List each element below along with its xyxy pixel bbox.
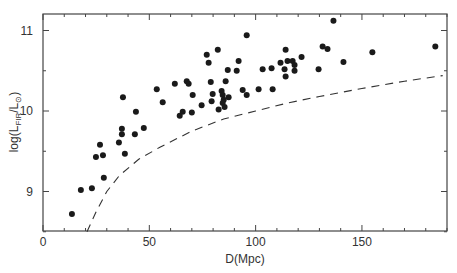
data-point (141, 125, 147, 131)
data-point (122, 151, 128, 157)
data-point (330, 18, 336, 24)
x-tick-label: 150 (352, 235, 372, 249)
data-point (283, 73, 289, 79)
data-point (116, 139, 122, 145)
data-point (236, 58, 242, 64)
data-point (97, 142, 103, 148)
data-point (283, 47, 289, 53)
data-point (190, 92, 196, 98)
data-point (189, 110, 195, 116)
data-point (244, 92, 250, 98)
data-point (154, 86, 160, 92)
data-point (199, 102, 205, 108)
data-point (240, 87, 246, 93)
data-point (234, 68, 240, 74)
dashed-limit-curve (87, 76, 443, 232)
detection-limit-curve (87, 76, 443, 232)
data-point (119, 131, 125, 137)
data-point (225, 67, 231, 73)
data-point (206, 60, 212, 66)
data-point (160, 99, 166, 105)
data-point (215, 47, 221, 53)
data-point (180, 109, 186, 115)
data-point (209, 98, 215, 104)
data-point (269, 65, 275, 71)
plot-frame (43, 14, 447, 231)
data-point (210, 91, 216, 97)
data-point (69, 211, 75, 217)
data-point (299, 54, 305, 60)
scatter-chart: 050100150 91011 D(Mpc) log(LFIR/L⊙) (0, 0, 457, 273)
data-point (226, 94, 232, 100)
plot-area (43, 14, 447, 231)
data-point (256, 86, 262, 92)
data-point (270, 86, 276, 92)
data-point (292, 68, 298, 74)
data-point (208, 79, 214, 85)
data-points (69, 18, 438, 217)
y-tick-label: 9 (26, 185, 33, 199)
data-point (100, 152, 106, 158)
x-axis: 050100150 (40, 14, 447, 249)
data-point (432, 44, 438, 50)
y-axis: 91011 (20, 24, 447, 232)
data-point (93, 154, 99, 160)
data-point (244, 32, 250, 38)
data-point (292, 62, 298, 68)
data-point (316, 66, 322, 72)
data-point (282, 66, 288, 72)
data-point (204, 52, 210, 58)
x-tick-label: 50 (143, 235, 157, 249)
data-point (89, 185, 95, 191)
data-point (223, 78, 229, 84)
y-axis-title: log(LFIR/L⊙) (7, 92, 23, 153)
data-point (78, 187, 84, 193)
data-point (119, 126, 125, 132)
data-point (133, 109, 139, 115)
data-point (186, 81, 192, 87)
data-point (325, 46, 331, 52)
data-point (278, 60, 284, 66)
data-point (340, 59, 346, 65)
x-axis-title: D(Mpc) (225, 252, 264, 266)
x-tick-label: 100 (246, 235, 266, 249)
data-point (132, 131, 138, 137)
data-point (101, 175, 107, 181)
data-point (216, 106, 222, 112)
data-point (120, 94, 126, 100)
data-point (285, 58, 291, 64)
data-point (369, 49, 375, 55)
x-tick-label: 0 (40, 235, 47, 249)
data-point (260, 66, 266, 72)
y-tick-label: 11 (21, 24, 34, 38)
data-point (222, 104, 228, 110)
data-point (172, 81, 178, 87)
